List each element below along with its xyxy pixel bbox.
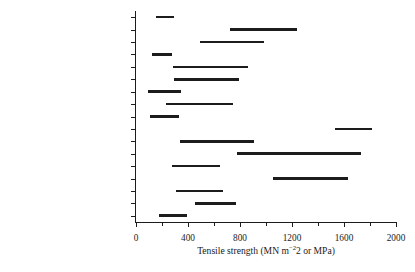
- x-axis-tick-label: 0: [134, 233, 139, 243]
- y-axis-tick: [131, 129, 136, 130]
- range-bar: [173, 66, 248, 69]
- x-axis-major-tick: [344, 222, 345, 227]
- x-axis-minor-tick: [370, 222, 371, 226]
- y-axis-tick: [131, 117, 136, 118]
- x-axis-major-tick: [188, 222, 189, 227]
- x-axis-tick-label: 2000: [387, 233, 406, 243]
- y-axis-tick: [131, 30, 136, 31]
- range-bar: [176, 190, 223, 193]
- range-bar: [273, 177, 348, 180]
- y-axis-tick: [131, 54, 136, 55]
- plot-area: 0400800120016002000: [136, 11, 396, 222]
- category-axis-labels: [0, 0, 132, 222]
- x-axis-major-tick: [240, 222, 241, 227]
- x-axis-major-tick: [396, 222, 397, 227]
- y-axis-tick: [131, 92, 136, 93]
- tensile-strength-chart: 0400800120016002000 Tensile strength (MN…: [0, 0, 415, 272]
- y-axis-tick: [131, 216, 136, 217]
- x-axis-minor-tick: [162, 222, 163, 226]
- range-bar: [159, 214, 188, 217]
- x-axis-tick-label: 1200: [283, 233, 302, 243]
- y-axis-tick: [131, 179, 136, 180]
- range-bar: [195, 202, 236, 205]
- range-bar: [150, 115, 179, 118]
- y-axis-tick: [131, 17, 136, 18]
- x-axis-tick-label: 400: [181, 233, 195, 243]
- range-bar: [230, 28, 297, 31]
- y-axis-tick: [131, 191, 136, 192]
- range-bar: [200, 41, 264, 44]
- range-bar: [148, 90, 181, 93]
- range-bar: [174, 78, 238, 81]
- y-axis-tick: [131, 104, 136, 105]
- range-bar: [166, 103, 234, 106]
- range-bar: [152, 53, 172, 56]
- x-axis-minor-tick: [266, 222, 267, 226]
- x-axis-minor-tick: [318, 222, 319, 226]
- y-axis-tick: [131, 79, 136, 80]
- x-axis-tick-label: 1600: [335, 233, 354, 243]
- y-axis-tick: [131, 154, 136, 155]
- range-bar: [172, 165, 220, 168]
- y-axis-tick: [131, 141, 136, 142]
- x-axis-title: Tensile strength (MN m−22 or MPa): [136, 245, 396, 256]
- x-axis-major-tick: [136, 222, 137, 227]
- range-bar: [335, 128, 372, 131]
- x-axis-tick-label: 800: [233, 233, 247, 243]
- x-axis-minor-tick: [214, 222, 215, 226]
- y-axis-tick: [131, 42, 136, 43]
- y-axis-tick: [131, 203, 136, 204]
- range-bar: [237, 152, 361, 155]
- range-bar: [180, 140, 254, 143]
- y-axis-tick: [131, 166, 136, 167]
- x-axis-major-tick: [292, 222, 293, 227]
- range-bar: [156, 16, 174, 19]
- y-axis-tick: [131, 67, 136, 68]
